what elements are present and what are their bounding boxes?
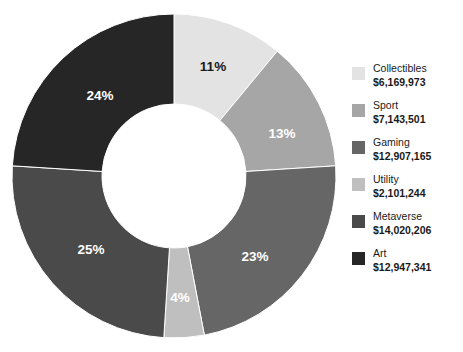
legend-category-name: Collectibles xyxy=(373,62,427,76)
legend-category-value: $7,143,501 xyxy=(373,113,426,127)
legend-category-name: Sport xyxy=(373,99,426,113)
slice-percent-label-art: 24% xyxy=(86,88,113,103)
legend-category-name: Art xyxy=(373,247,431,261)
legend-swatch-utility xyxy=(352,178,365,191)
legend-swatch-art xyxy=(352,252,365,265)
legend-category-value: $6,169,973 xyxy=(373,76,427,90)
chart-legend: Collectibles$6,169,973Sport$7,143,501Gam… xyxy=(352,62,463,284)
slice-percent-label-utility: 4% xyxy=(170,290,190,305)
legend-category-value: $2,101,244 xyxy=(373,187,426,201)
legend-swatch-gaming xyxy=(352,141,365,154)
legend-category-value: $12,947,341 xyxy=(373,261,431,275)
legend-category-name: Metaverse xyxy=(373,210,431,224)
legend-item-gaming[interactable]: Gaming$12,907,165 xyxy=(352,136,463,173)
legend-item-art[interactable]: Art$12,947,341 xyxy=(352,247,463,284)
legend-item-utility[interactable]: Utility$2,101,244 xyxy=(352,173,463,210)
legend-item-sport[interactable]: Sport$7,143,501 xyxy=(352,99,463,136)
legend-text-group: Metaverse$14,020,206 xyxy=(373,210,431,238)
legend-category-value: $14,020,206 xyxy=(373,224,431,238)
legend-item-metaverse[interactable]: Metaverse$14,020,206 xyxy=(352,210,463,247)
legend-swatch-collectibles xyxy=(352,67,365,80)
slice-percent-label-collectibles: 11% xyxy=(200,59,226,74)
legend-swatch-metaverse xyxy=(352,215,365,228)
donut-chart-svg: 11%13%23%4%25%24% xyxy=(0,0,348,352)
donut-chart: 11%13%23%4%25%24% xyxy=(0,0,348,352)
legend-text-group: Art$12,947,341 xyxy=(373,247,431,275)
legend-text-group: Sport$7,143,501 xyxy=(373,99,426,127)
slice-percent-label-metaverse: 25% xyxy=(77,242,104,257)
legend-item-collectibles[interactable]: Collectibles$6,169,973 xyxy=(352,62,463,99)
legend-text-group: Utility$2,101,244 xyxy=(373,173,426,201)
slice-percent-label-sport: 13% xyxy=(268,126,295,141)
legend-category-name: Gaming xyxy=(373,136,431,150)
legend-category-name: Utility xyxy=(373,173,426,187)
legend-category-value: $12,907,165 xyxy=(373,150,431,164)
legend-text-group: Collectibles$6,169,973 xyxy=(373,62,427,90)
legend-swatch-sport xyxy=(352,104,365,117)
legend-text-group: Gaming$12,907,165 xyxy=(373,136,431,164)
slice-percent-label-gaming: 23% xyxy=(241,249,268,264)
